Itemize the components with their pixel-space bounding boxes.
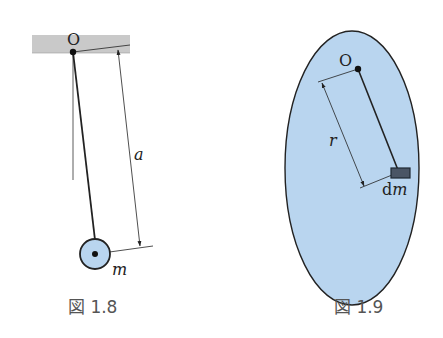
caption-fig-1-8: 図 1.8 xyxy=(68,297,117,317)
bob-center-dot xyxy=(92,251,98,257)
caption-fig-1-9: 図 1.9 xyxy=(334,297,383,317)
label-length-a: a xyxy=(134,145,144,164)
diagram-canvas: O a m 図 1.8 O r dm 図 1.9 xyxy=(0,0,443,338)
label-distance-r: r xyxy=(329,131,338,150)
ceiling-bar xyxy=(32,35,130,53)
label-pivot-o: O xyxy=(67,30,80,49)
mass-element-dm xyxy=(391,168,410,178)
pivot-dot-body xyxy=(355,66,361,72)
pivot-dot xyxy=(70,49,76,55)
figure-1-8: O a m 図 1.8 xyxy=(32,30,153,317)
pendulum-rod xyxy=(73,52,95,240)
label-mass-element-dm: dm xyxy=(382,180,407,199)
label-mass-m: m xyxy=(112,260,127,279)
label-pivot-o-body: O xyxy=(339,51,352,70)
figure-1-9: O r dm 図 1.9 xyxy=(285,31,419,317)
